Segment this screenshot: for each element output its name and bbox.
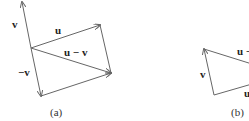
figure-b: u − v u (b) (200, 45, 249, 119)
vector-neg-v-arrow (31, 48, 41, 96)
caption-a: (a) (50, 106, 63, 119)
label-u-minus-v-b: u − (237, 45, 249, 57)
figure-a: v u u − v −v (a) (12, 2, 111, 119)
parallelogram-bottom-edge (41, 73, 111, 96)
label-v: v (12, 18, 18, 30)
vector-diagram: v u u − v −v (a) u − v u (b) (0, 0, 249, 121)
label-u: u (55, 24, 61, 36)
vector-v-b (204, 49, 214, 95)
vector-v-arrow (22, 2, 31, 48)
caption-b: (b) (231, 106, 244, 119)
vector-u-arrow (31, 25, 100, 48)
parallelogram-right-edge (100, 25, 111, 73)
label-v-b: v (200, 68, 206, 80)
label-u-minus-v: u − v (64, 46, 88, 58)
label-u-b: u (244, 87, 249, 99)
label-neg-v: −v (18, 66, 30, 78)
